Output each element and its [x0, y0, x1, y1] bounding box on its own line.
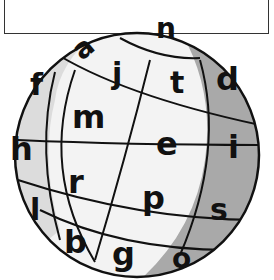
letter-b: b	[64, 223, 87, 261]
letter-t: t	[170, 65, 184, 100]
letter-g: g	[112, 235, 135, 273]
letter-d: d	[216, 60, 239, 98]
letter-n: n	[156, 12, 176, 45]
letter-o: o	[172, 242, 191, 275]
letter-i: i	[228, 128, 239, 166]
letter-h: h	[10, 130, 33, 168]
letter-m: m	[72, 98, 105, 136]
letter-j: j	[111, 56, 122, 91]
letter-l: l	[30, 192, 40, 227]
letter-s: s	[210, 192, 228, 227]
letter-f: f	[30, 67, 44, 102]
letter-r: r	[68, 163, 84, 201]
letter-p: p	[142, 179, 165, 217]
letter-e: e	[156, 125, 178, 163]
letter-globe: a n j t d f m e i h r p s l b g o	[0, 0, 274, 280]
